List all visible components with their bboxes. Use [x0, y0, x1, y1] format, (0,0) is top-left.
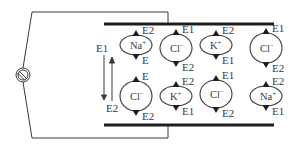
ion-top-field-label: E — [142, 70, 149, 82]
ion-label: Na+ — [260, 90, 276, 102]
ion-label: K+ — [170, 90, 182, 102]
ion-bottom-field-label: E2 — [182, 61, 194, 73]
ion-bottom-field-label: E2 — [272, 62, 284, 74]
electrophoresis-diagram: E1 E2 Na+E2ECl−E1E2K+E2E1Cl−E1E2Cl−EE2K+… — [0, 0, 302, 151]
bottom-electrode-plate — [104, 124, 274, 127]
ion-cl-anion: Cl−E1E2 — [200, 69, 234, 119]
field-label-e2: E2 — [106, 102, 118, 114]
ion-bottom-field-label: E1 — [182, 105, 194, 117]
triangle-down-icon — [133, 110, 140, 116]
triangle-down-icon — [263, 105, 270, 111]
triangle-up-icon — [133, 76, 140, 82]
triangle-up-icon — [213, 30, 220, 36]
ion-top-field-label: E2 — [142, 24, 154, 36]
ac-source-icon — [16, 68, 30, 82]
ion-cl-anion: Cl−E1E2 — [160, 23, 194, 73]
ion-bottom-field-label: E1 — [272, 105, 284, 117]
ion-k-cation: K+E2E1 — [200, 24, 234, 66]
triangle-down-icon — [133, 54, 140, 60]
ion-label: Cl− — [210, 88, 224, 100]
triangle-up-icon — [133, 30, 140, 36]
triangle-down-icon — [213, 107, 220, 113]
ion-cl-anion: Cl−E1E2 — [250, 22, 284, 74]
field-label-e1: E1 — [96, 42, 108, 54]
ion-na-cation: Na+E2E — [120, 24, 154, 66]
triangle-up-icon — [263, 81, 270, 87]
ion-top-field-label: E2 — [182, 75, 194, 87]
ion-top-field-label: E2 — [222, 24, 234, 36]
triangle-up-icon — [213, 75, 220, 81]
triangle-down-icon — [173, 61, 180, 67]
ion-top-field-label: E1 — [272, 22, 284, 34]
ion-bottom-field-label: E1 — [222, 54, 234, 66]
triangle-up-icon — [263, 28, 270, 34]
ion-k-cation: K+E2E1 — [160, 75, 194, 117]
triangle-down-icon — [173, 105, 180, 111]
ion-top-field-label: E1 — [222, 69, 234, 81]
ion-label: Na+ — [130, 39, 146, 51]
triangle-up-icon — [173, 81, 180, 87]
ion-label: K+ — [210, 39, 222, 51]
ion-label: Cl− — [260, 42, 274, 54]
ion-top-field-label: E1 — [182, 23, 194, 35]
ion-bottom-field-label: E2 — [142, 110, 154, 122]
triangle-down-icon — [263, 62, 270, 68]
ions-group: Na+E2ECl−E1E2K+E2E1Cl−E1E2Cl−EE2K+E2E1Cl… — [120, 22, 284, 122]
triangle-up-icon — [173, 29, 180, 35]
ion-label: Cl− — [130, 90, 144, 102]
ion-bottom-field-label: E — [142, 54, 149, 66]
ion-cl-anion: Cl−EE2 — [120, 70, 154, 122]
ion-top-field-label: E2 — [272, 75, 284, 87]
field-arrows — [102, 55, 115, 101]
ion-bottom-field-label: E2 — [222, 107, 234, 119]
triangle-down-icon — [213, 54, 220, 60]
ion-na-cation: Na+E2E1 — [250, 75, 284, 117]
ion-label: Cl− — [170, 42, 184, 54]
